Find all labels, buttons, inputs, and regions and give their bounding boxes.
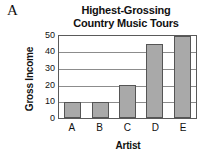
y-axis-tick-labels: 50 40 30 20 10 0 xyxy=(36,35,55,119)
y-axis-title-text: Gross Income xyxy=(24,47,35,111)
chart-title: Highest-Grossing Country Music Tours xyxy=(48,4,204,30)
chart-title-line-2: Country Music Tours xyxy=(48,17,204,30)
bar-D xyxy=(146,44,163,118)
bar-C xyxy=(119,85,136,118)
y-axis-title: Gross Income xyxy=(22,38,36,120)
plot-area xyxy=(58,35,197,119)
x-axis-title: Artist xyxy=(58,140,198,151)
y-tick-label: 20 xyxy=(37,81,55,90)
x-tick-label: E xyxy=(175,122,192,133)
chart-title-line-1: Highest-Grossing xyxy=(48,4,204,17)
y-tick-label: 10 xyxy=(37,97,55,106)
panel-label: A xyxy=(7,3,18,18)
y-tick-label: 0 xyxy=(37,114,55,123)
bars-layer xyxy=(59,36,196,118)
bar-E xyxy=(174,36,191,118)
x-tick-label: D xyxy=(147,122,164,133)
y-tick-label: 30 xyxy=(37,64,55,73)
x-tick-label: B xyxy=(91,122,108,133)
bar-A xyxy=(64,102,81,118)
x-axis-tick-labels: ABCDE xyxy=(58,122,197,133)
x-tick-label: A xyxy=(63,122,80,133)
bar-B xyxy=(92,102,109,118)
y-tick-label: 40 xyxy=(37,47,55,56)
x-tick-label: C xyxy=(119,122,136,133)
y-tick-label: 50 xyxy=(37,31,55,40)
